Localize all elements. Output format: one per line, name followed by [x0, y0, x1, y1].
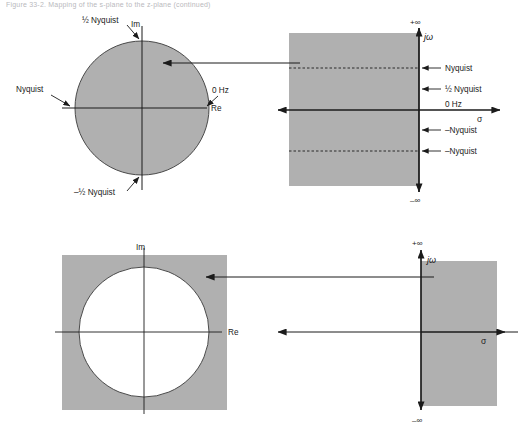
s-plane-right-half-shaded — [421, 261, 497, 406]
figure-caption: Figure 33-2. Mapping of the s-plane to t… — [6, 0, 512, 9]
plus-infinity-label-top: +∞ — [410, 18, 421, 27]
minus-infinity-label-bottom: –∞ — [412, 416, 422, 425]
zero-hz-label-circle: 0 Hz — [212, 86, 229, 95]
tick-label-neg-nyquist-upper: –Nyquist — [445, 126, 478, 135]
nyquist-label-left: Nyquist — [16, 85, 44, 94]
minus-infinity-label-top: –∞ — [410, 196, 420, 205]
im-axis-label: Im — [131, 20, 140, 29]
tick-label-nyquist: Nyquist — [445, 64, 473, 73]
plus-infinity-label-bottom: +∞ — [412, 239, 423, 248]
panel-top-left-z-plane: Im Re ½ Nyquist –½ Nyquist Nyquist 0 Hz — [16, 16, 229, 197]
mapping-diagram: Im Re ½ Nyquist –½ Nyquist Nyquist 0 Hz — [0, 0, 518, 447]
sigma-axis-label: σ — [477, 114, 483, 124]
jw-axis-label: jω — [423, 32, 433, 42]
jw-axis-label-bottom: jω — [426, 255, 436, 265]
im-axis-label-bottom: Im — [136, 243, 145, 252]
tick-label-neg-nyquist-lower: –Nyquist — [445, 147, 478, 156]
re-axis-label: Re — [211, 104, 222, 113]
sigma-axis-label-bottom: σ — [481, 336, 487, 346]
tick-label-half-nyquist: ½ Nyquist — [445, 85, 482, 94]
half-nyquist-label: ½ Nyquist — [82, 16, 119, 25]
figure-container: Figure 33-2. Mapping of the s-plane to t… — [0, 0, 518, 447]
unit-circle-exterior-shaded — [62, 255, 227, 410]
neg-half-nyquist-label: –½ Nyquist — [74, 188, 116, 197]
panel-bottom-left-z-plane: Im Re — [55, 243, 239, 414]
nyquist-left-leader — [51, 95, 70, 106]
tick-label-zero-hz: 0 Hz — [445, 100, 462, 109]
neg-half-nyquist-leader — [127, 177, 139, 191]
panel-top-right-s-plane: +∞ –∞ jω σ Nyquist ½ Nyquist 0 Hz –Nyqui… — [278, 18, 500, 205]
re-axis-label-bottom: Re — [228, 328, 239, 337]
